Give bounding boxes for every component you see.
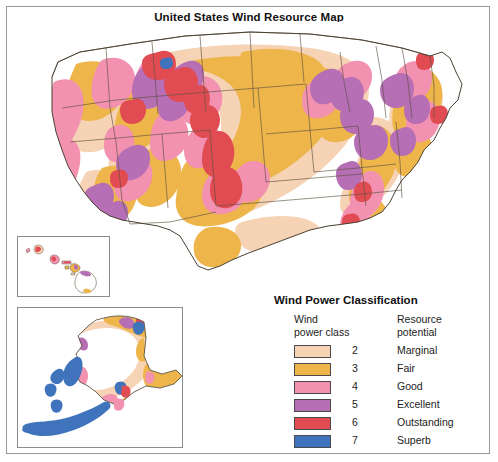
legend-class-number: 2 [352,344,358,356]
legend-color-swatch [294,381,331,394]
legend-header-wind-power-class-line2: power class [294,326,349,339]
legend-color-swatch [294,345,331,358]
legend-potential-label: Outstanding [397,416,454,428]
legend-class-number: 4 [352,380,358,392]
legend-potential-label: Superb [397,434,431,446]
legend-rows: 2Marginal3Fair4Good5Excellent6Outstandin… [262,343,486,451]
legend-color-swatch [294,435,331,448]
legend-potential-label: Marginal [397,344,437,356]
legend-row: 7Superb [294,433,486,451]
alaska-map-svg [18,308,183,448]
legend-title: Wind Power Classification [274,294,486,306]
legend-class-number: 7 [352,434,358,446]
legend-class-number: 5 [352,398,358,410]
legend-row: 5Excellent [294,397,486,415]
legend-header-wind-power-class-line1: Wind [294,313,349,326]
legend-class-number: 3 [352,362,358,374]
legend-row: 3Fair [294,361,486,379]
legend-column-headers: Wind power class Resource potential [294,313,486,343]
legend-potential-label: Fair [397,362,415,374]
legend-header-resource-potential-line2: potential [397,326,442,339]
legend-wind-power-classification: Wind Power Classification Wind power cla… [262,294,486,451]
hawaii-map-svg [18,237,110,297]
inset-hawaii [17,236,110,297]
legend-header-wind-power-class: Wind power class [294,313,349,339]
legend-row: 6Outstanding [294,415,486,433]
legend-potential-label: Good [397,380,423,392]
legend-potential-label: Excellent [397,398,440,410]
legend-color-swatch [294,417,331,430]
legend-header-resource-potential: Resource potential [397,313,442,339]
wind-resource-map-page: United States Wind Resource Map [0,0,498,462]
legend-color-swatch [294,399,331,412]
inset-alaska [17,307,183,448]
legend-row: 2Marginal [294,343,486,361]
hawaii-islands [26,245,96,293]
class-7-superb-areas [160,57,173,69]
legend-row: 4Good [294,379,486,397]
legend-class-number: 6 [352,416,358,428]
legend-color-swatch [294,363,331,376]
legend-header-resource-potential-line1: Resource [397,313,442,326]
